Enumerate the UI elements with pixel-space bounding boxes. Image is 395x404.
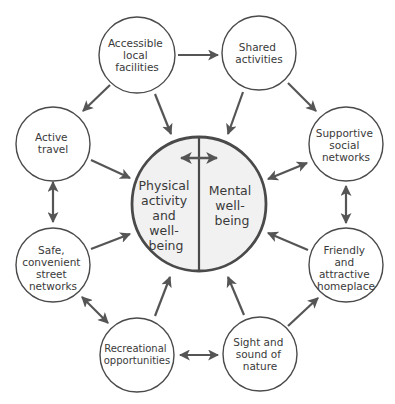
arrow-shared-to-supportive [288,83,316,111]
node-friendly: Friendly and attractive homeplace [309,228,383,302]
arrow-recreational-to-center [155,277,170,316]
node-active: Active travel [16,107,90,181]
arrow-friendly-to-center [268,233,308,250]
node-shared: Shared activities [222,16,296,90]
node-supportive: Supportive social networks [309,107,383,181]
arrow-supportive-center [268,163,307,179]
node-recreational: Recreational opportunities [100,318,174,392]
svg-text:Recreational opportuniti: Recreational opportunities [104,343,170,366]
arrow-safe-recreational [82,297,108,323]
arrow-safe-to-center [91,234,130,249]
center-node: Physical activity and well- being Mental… [132,137,266,271]
svg-text:Active travel: Active travel [35,131,71,155]
node-safe: Safe, convenient street networks [16,228,90,302]
svg-text:Shared activities: Shared activities [235,41,282,65]
arrow-sight-to-center [228,277,244,315]
wellbeing-diagram: Physical activity and well- being Mental… [0,0,395,404]
arrow-sight-to-friendly [288,298,318,326]
arrow-shared-to-center [228,92,243,134]
center-right-label: Mental well- being [209,183,255,228]
node-sight: Sight and sound of nature [223,317,297,391]
arrow-accessible-to-active [83,85,110,111]
svg-text:Friendly and attra: Friendly and attractive homeplace [317,244,375,292]
node-accessible: Accessible local facilities [99,17,175,93]
arrow-accessible-to-center [155,94,171,134]
arrow-active-to-center [91,160,130,178]
